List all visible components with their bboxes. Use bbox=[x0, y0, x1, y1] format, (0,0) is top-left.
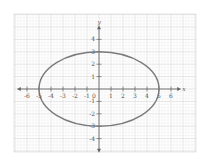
y-tick-label: 4 bbox=[91, 35, 95, 42]
origin-label: 0 bbox=[92, 92, 96, 99]
x-tick-label: 5 bbox=[157, 92, 161, 99]
y-tick-label: 1 bbox=[91, 73, 95, 80]
x-tick-label: -3 bbox=[60, 92, 66, 99]
x-tick-label: -5 bbox=[36, 92, 42, 99]
x-tick-label: -6 bbox=[24, 92, 30, 99]
grid bbox=[14, 14, 196, 152]
y-tick-label: 2 bbox=[91, 60, 95, 67]
x-tick-label: -4 bbox=[48, 92, 54, 99]
y-tick-label: -2 bbox=[89, 110, 95, 117]
x-tick-label: 2 bbox=[121, 92, 125, 99]
x-tick-label: -2 bbox=[72, 92, 78, 99]
ellipse-chart: xy-6-5-4-3-2-1123456-4-3-2-112340 bbox=[0, 0, 206, 161]
y-tick-label: -3 bbox=[89, 122, 95, 129]
x-tick-label: 4 bbox=[145, 92, 149, 99]
x-tick-label: 1 bbox=[109, 92, 113, 99]
y-axis-label: y bbox=[97, 18, 102, 26]
x-tick-label: 6 bbox=[169, 92, 173, 99]
x-tick-label: 3 bbox=[133, 92, 137, 99]
y-tick-label: -4 bbox=[89, 135, 95, 142]
y-tick-label: 3 bbox=[91, 48, 95, 55]
